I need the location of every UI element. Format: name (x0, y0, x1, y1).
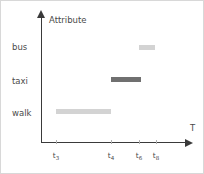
segment-bar-walk (56, 109, 111, 114)
x-axis-line (41, 142, 187, 143)
x-axis-tick-mark (139, 140, 140, 144)
x-axis-tick-label: t3 (53, 151, 59, 160)
y-axis-line (41, 17, 42, 143)
x-axis-arrow-icon (185, 139, 193, 147)
category-label-walk: walk (12, 108, 31, 118)
x-axis-tick-mark (111, 140, 112, 144)
y-axis-title: Attribute (49, 15, 87, 25)
category-label-bus: bus (12, 42, 27, 52)
x-axis-tick-label: t6 (136, 151, 142, 160)
segment-bar-bus (139, 45, 155, 50)
timeline-chart: Attribute T bus taxi walk t3t4t6t8 (0, 0, 204, 174)
category-label-taxi: taxi (12, 76, 28, 86)
x-axis-title: T (190, 123, 195, 133)
x-axis-tick-mark (56, 140, 57, 144)
x-axis-tick-label: t8 (153, 151, 159, 160)
segment-bar-taxi (111, 77, 141, 82)
y-axis-arrow-icon (37, 10, 45, 18)
x-axis-tick-mark (156, 140, 157, 144)
x-axis-tick-label: t4 (108, 151, 114, 160)
